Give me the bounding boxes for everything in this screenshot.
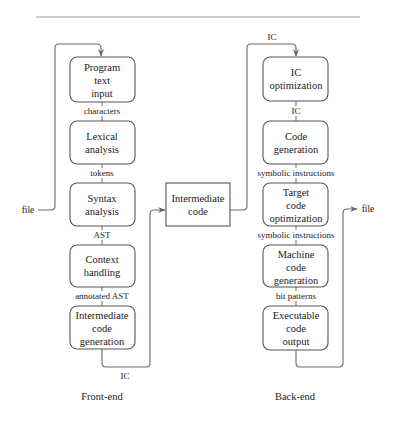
box-code-generation	[263, 121, 328, 164]
front-end-title: Front-end	[81, 391, 123, 402]
box-label: code	[286, 323, 306, 334]
back-end-boxes: IC optimization Code generation Target c…	[263, 57, 328, 350]
box-label: Lexical	[86, 131, 118, 142]
edge-label: IC	[292, 106, 301, 116]
box-label: code	[286, 262, 306, 273]
box-label: code	[286, 200, 306, 211]
edge-label: tokens	[90, 168, 114, 178]
box-label: input	[91, 88, 113, 99]
box-label: Executable	[273, 310, 320, 321]
box-intermediate-code	[166, 183, 230, 226]
box-label: generation	[274, 144, 319, 155]
box-lexical-analysis	[70, 121, 135, 164]
front-input-label: file	[22, 205, 35, 215]
edge-label: bit patterns	[276, 291, 317, 301]
box-label: optimization	[269, 213, 323, 224]
box-label: generation	[274, 275, 319, 286]
box-label: code	[92, 323, 112, 334]
compiler-diagram: file IC Program text input Lexical analy…	[0, 0, 396, 421]
box-ic-optimization	[263, 57, 328, 101]
box-label: text	[94, 75, 110, 86]
back-input-label: IC	[268, 32, 277, 42]
box-label: handling	[84, 267, 121, 278]
box-label: Syntax	[87, 193, 117, 204]
box-label: Intermediate	[171, 193, 224, 204]
edge-label: characters	[84, 106, 121, 116]
back-end-title: Back-end	[275, 391, 316, 402]
back-output-label: file	[362, 204, 375, 214]
box-label: optimization	[269, 80, 323, 91]
edge-label: symbolic instructions	[257, 168, 335, 178]
box-label: output	[283, 336, 310, 347]
box-syntax-analysis	[70, 183, 135, 226]
box-label: IC	[291, 67, 302, 78]
box-context-handling	[70, 245, 135, 287]
box-label: Context	[85, 254, 118, 265]
box-label: Code	[285, 131, 308, 142]
box-label: Intermediate	[75, 310, 128, 321]
box-label: Machine	[278, 249, 315, 260]
box-label: Target	[283, 187, 310, 198]
edge-label: symbolic instructions	[257, 230, 335, 240]
box-label: code	[188, 206, 208, 217]
box-label: analysis	[85, 206, 119, 217]
box-label: generation	[80, 336, 125, 347]
edge-label: annotated AST	[75, 291, 129, 301]
box-label: analysis	[85, 144, 119, 155]
box-label: Program	[84, 62, 120, 73]
front-output-label: IC	[121, 371, 130, 381]
edge-label: AST	[93, 230, 111, 240]
